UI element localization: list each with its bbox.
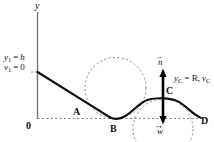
point-label-c: C (166, 86, 173, 96)
normal-force-arrowhead-icon (159, 69, 166, 78)
point-label-a: A (73, 107, 80, 117)
initial-height-equals: = (13, 52, 18, 62)
valley-circle (85, 58, 146, 119)
y-axis-label: y (35, 1, 39, 11)
normal-force-vector-label: n (158, 58, 163, 67)
initial-height-value: h (20, 52, 25, 62)
weight-vector-label: w (157, 127, 163, 136)
origin-label: 0 (26, 121, 31, 131)
crest-equals-r: = R, (184, 73, 200, 83)
point-label-b: B (110, 124, 117, 134)
initial-speed-label: v1=0 (4, 63, 25, 72)
vector-arrow-overbar-icon (157, 55, 162, 60)
initial-height-subscript: 1 (8, 56, 11, 63)
initial-speed-equals: = (13, 62, 18, 72)
crest-y-subscript: C (178, 77, 182, 84)
initial-height-label: y1=h (4, 53, 25, 62)
crest-annotation: yC= R,vC (174, 74, 210, 83)
initial-speed-value: 0 (20, 62, 25, 72)
initial-speed-subscript: 1 (8, 66, 11, 73)
track-curve (110, 98, 201, 119)
physics-diagram-canvas (0, 0, 214, 142)
point-label-d: D (201, 116, 208, 126)
crest-v-subscript: C (206, 77, 210, 84)
vector-arrow-overbar-icon-w (156, 124, 162, 129)
